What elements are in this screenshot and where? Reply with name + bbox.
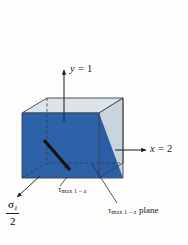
fraction-bar	[6, 213, 19, 214]
tau-max-bottom-label: τmax 1 – z	[58, 185, 87, 194]
tau-subscript: max 1 – z	[61, 188, 86, 194]
tau-plane-word: plane	[139, 205, 159, 215]
tau-plane-subscript: max 1 – z	[111, 209, 136, 215]
x-axis-value: 2	[167, 143, 172, 154]
y-axis-equals: =	[75, 63, 87, 74]
stress-element-figure: y = 1 x = 2 σ1 2 τmax 1 – z τmax 1 – z p…	[0, 0, 188, 245]
sigma-denominator: 2	[6, 215, 19, 227]
y-axis-label: y = 1	[70, 64, 92, 75]
x-axis-label: x = 2	[150, 144, 172, 155]
y-axis-value: 1	[87, 63, 92, 74]
sigma-half-label: σ1 2	[6, 199, 19, 227]
shear-plane-upper-cut	[22, 113, 99, 122]
x-axis-equals: =	[155, 143, 167, 154]
figure-canvas	[0, 0, 188, 245]
sigma-half-leader-arrow	[17, 176, 40, 197]
sigma-subscript: 1	[14, 204, 18, 212]
tau-max-plane-label: τmax 1 – z plane	[108, 206, 158, 215]
shear-plane-face	[22, 113, 99, 178]
sigma-numerator: σ1	[6, 199, 19, 213]
